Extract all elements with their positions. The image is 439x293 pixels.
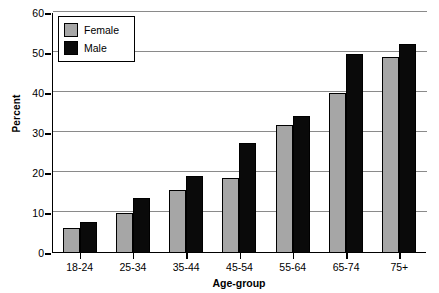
- bar-female-45-54: [222, 178, 239, 253]
- y-axis-ticks: [0, 13, 52, 253]
- x-axis-tick-mark: [80, 253, 82, 259]
- y-axis-tick-mark: [45, 213, 51, 215]
- x-axis-tick-label: 75+: [369, 261, 429, 273]
- x-axis-tick-label: 18-24: [50, 261, 110, 273]
- male-swatch-icon: [64, 41, 78, 55]
- bar-group: [213, 13, 266, 253]
- x-axis-tick-label: 25-34: [103, 261, 163, 273]
- gridline: [53, 11, 427, 12]
- bar-female-55-64: [276, 125, 293, 253]
- x-axis-tick-mark: [399, 253, 401, 259]
- y-axis-tick-mark: [45, 253, 51, 255]
- bar-male-35-44: [186, 176, 203, 253]
- x-axis-tick-mark: [293, 253, 295, 259]
- y-axis-tick-mark: [45, 13, 51, 15]
- bar-female-18-24: [63, 228, 80, 253]
- x-axis-tick-mark: [346, 253, 348, 259]
- legend: Female Male: [58, 16, 135, 62]
- x-axis-title: Age-group: [52, 277, 426, 289]
- x-axis-tick-label: 35-44: [156, 261, 216, 273]
- x-axis-tick-mark: [240, 253, 242, 259]
- bar-male-45-54: [239, 143, 256, 253]
- x-axis-ticks: [53, 253, 426, 261]
- female-swatch-icon: [64, 23, 78, 37]
- y-axis-tick-mark: [45, 53, 51, 55]
- bar-male-18-24: [80, 222, 97, 253]
- legend-label-male: Male: [84, 42, 107, 54]
- y-axis-tick-mark: [45, 93, 51, 95]
- x-axis-tick-labels: 18-2425-3435-4445-5455-6465-7475+: [53, 261, 426, 275]
- bar-female-35-44: [169, 190, 186, 253]
- x-axis-tick-mark: [186, 253, 188, 259]
- bar-group: [319, 13, 372, 253]
- bar-female-75+: [382, 57, 399, 253]
- bar-male-25-34: [133, 198, 150, 253]
- y-axis-tick-mark: [45, 173, 51, 175]
- y-axis-tick-mark: [45, 133, 51, 135]
- legend-entry-female: Female: [64, 21, 134, 39]
- bar-group: [373, 13, 426, 253]
- x-axis-tick-label: 45-54: [210, 261, 270, 273]
- bar-male-75+: [399, 44, 416, 253]
- bar-group: [160, 13, 213, 253]
- legend-entry-male: Male: [64, 39, 134, 57]
- x-axis-tick-mark: [133, 253, 135, 259]
- bar-male-65-74: [346, 54, 363, 253]
- x-axis-tick-label: 55-64: [263, 261, 323, 273]
- bar-male-55-64: [293, 116, 310, 253]
- bar-female-65-74: [329, 93, 346, 253]
- bar-chart: Percent 0102030405060 18-2425-3435-4445-…: [0, 0, 439, 293]
- bar-group: [266, 13, 319, 253]
- bar-female-25-34: [116, 213, 133, 253]
- legend-label-female: Female: [84, 24, 119, 36]
- x-axis-tick-label: 65-74: [316, 261, 376, 273]
